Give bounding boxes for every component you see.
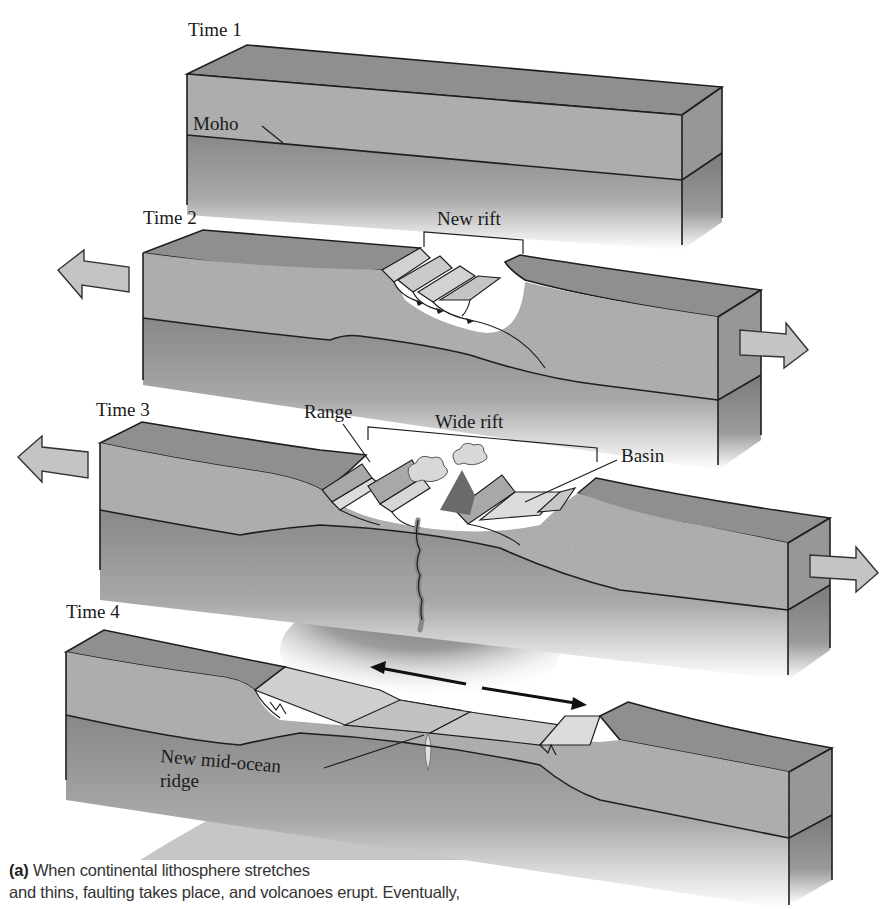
panel-title-time3: Time 3 [96,399,150,420]
label-ridge: ridge [160,770,199,791]
volcano-ash-cloud [453,443,487,465]
volcano [440,470,475,515]
label-wide-rift: Wide rift [435,411,504,432]
caption-line1: When continental lithosphere stretches [29,861,310,879]
arrow-left-icon [58,250,129,298]
arrow-left-icon [18,436,88,482]
figure-caption: (a) When continental lithosphere stretch… [9,859,879,903]
caption-part: (a) [9,861,29,879]
label-new-rift: New rift [437,208,502,229]
arrow-head-right [571,697,587,710]
panel-title-time1: Time 1 [188,19,242,40]
volcano-ash-cloud [408,456,448,481]
panel-title-time4: Time 4 [66,601,120,622]
label-basin: Basin [621,445,665,466]
continental-rifting-diagram: Time 1 Moho Time 2 [0,0,884,909]
caption-line2: and thins, faulting takes place, and vol… [9,883,460,901]
label-moho: Moho [193,113,238,134]
label-range: Range [304,401,353,422]
panel-title-time2: Time 2 [143,207,197,228]
